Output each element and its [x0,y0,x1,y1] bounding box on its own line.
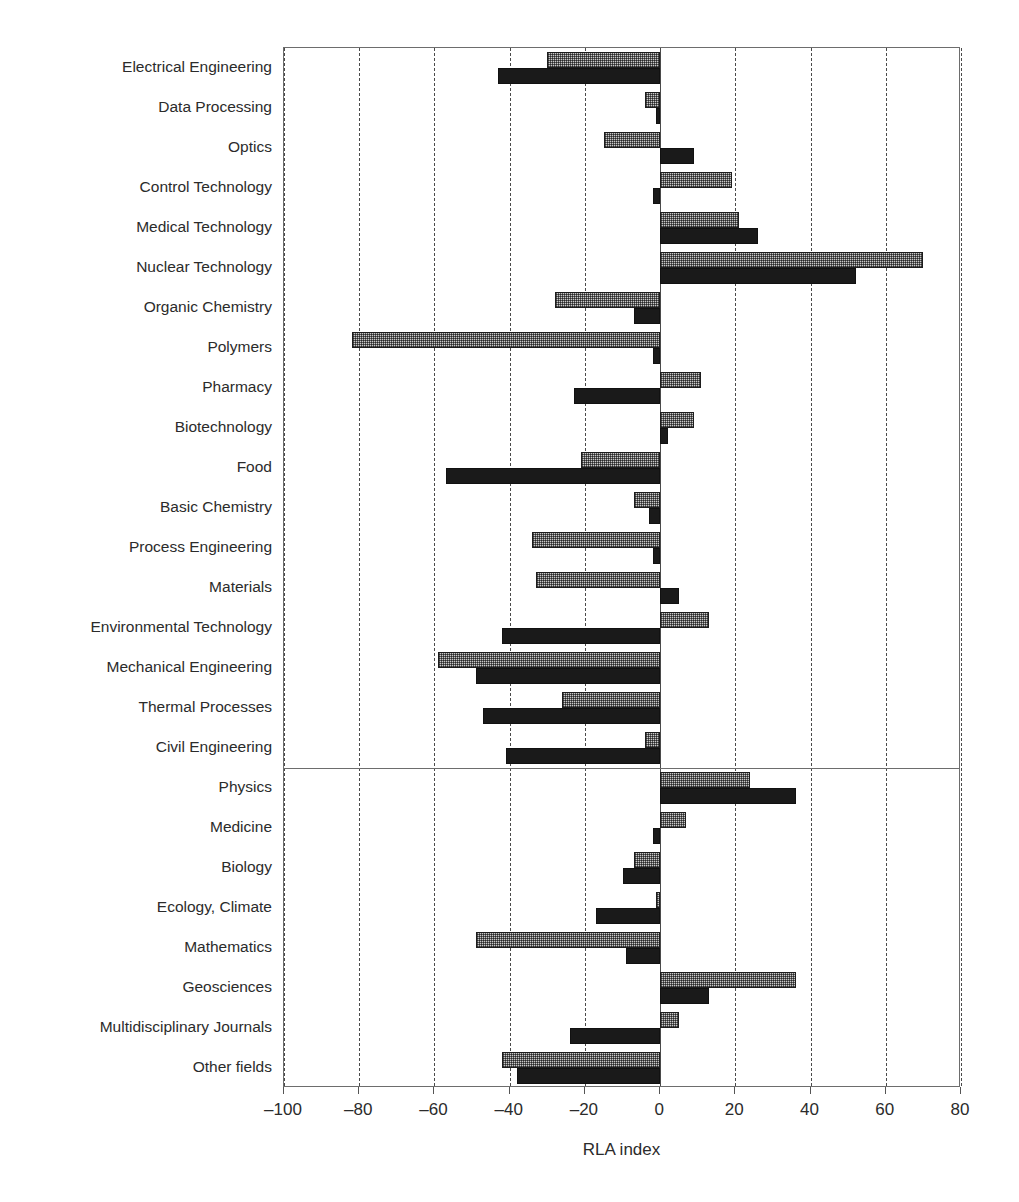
x-tick--100 [283,1087,284,1094]
gridline--100 [284,48,285,1086]
x-tick-40 [810,1087,811,1094]
x-tick-label--40: –40 [494,1100,522,1120]
bar-ger-food [446,468,660,484]
x-tick-label-40: 40 [800,1100,819,1120]
bar-sui-control-technology [660,172,731,188]
x-tick-label-20: 20 [725,1100,744,1120]
gridline--60 [434,48,435,1086]
x-tick-label--80: –80 [344,1100,372,1120]
bar-sui-polymers [352,332,660,348]
y-axis-label-mathematics: Mathematics [2,939,272,955]
x-tick--40 [509,1087,510,1094]
bar-sui-basic-chemistry [634,492,660,508]
bar-ger-process-engineering [653,548,661,564]
bar-ger-basic-chemistry [649,508,660,524]
bar-sui-geosciences [660,972,795,988]
y-axis-label-polymers: Polymers [2,339,272,355]
x-axis-title: RLA index [283,1140,960,1160]
y-axis-label-food: Food [2,459,272,475]
bar-sui-materials [536,572,660,588]
bar-ger-medicine [653,828,661,844]
bar-sui-mathematics [476,932,660,948]
y-axis-label-nuclear-technology: Nuclear Technology [2,259,272,275]
y-axis-label-civil-engineering: Civil Engineering [2,739,272,755]
bar-ger-civil-engineering [506,748,660,764]
bar-ger-biology [623,868,661,884]
x-tick-0 [659,1087,660,1094]
x-tick-20 [734,1087,735,1094]
chart-figure: Electrical EngineeringData ProcessingOpt… [0,0,1019,1202]
y-axis-label-geosciences: Geosciences [2,979,272,995]
gridline-40 [811,48,812,1086]
x-tick-80 [960,1087,961,1094]
bar-ger-medical-technology [660,228,758,244]
y-axis-label-pharmacy: Pharmacy [2,379,272,395]
gridline--20 [585,48,586,1086]
bar-ger-geosciences [660,988,709,1004]
x-tick-label--20: –20 [570,1100,598,1120]
bar-sui-electrical-engineering [547,52,660,68]
bar-ger-electrical-engineering [498,68,660,84]
section-divider [284,768,959,769]
y-axis-label-process-engineering: Process Engineering [2,539,272,555]
gridline--40 [510,48,511,1086]
bar-ger-nuclear-technology [660,268,856,284]
bar-sui-civil-engineering [645,732,660,748]
y-axis-label-medical-technology: Medical Technology [2,219,272,235]
bar-sui-nuclear-technology [660,252,923,268]
bar-ger-other-fields [517,1068,660,1084]
zero-line [660,48,661,1086]
bar-sui-biology [634,852,660,868]
bar-sui-pharmacy [660,372,701,388]
bar-ger-pharmacy [574,388,661,404]
x-axis: –100–80–60–40–20020406080 [283,1087,960,1147]
bar-sui-process-engineering [532,532,660,548]
bar-ger-biotechnology [660,428,668,444]
y-axis-label-multidisciplinary-journals: Multidisciplinary Journals [2,1019,272,1035]
y-axis-label-optics: Optics [2,139,272,155]
x-tick--80 [358,1087,359,1094]
bar-ger-thermal-processes [483,708,660,724]
y-axis-label-data-processing: Data Processing [2,99,272,115]
y-axis-label-physics: Physics [2,779,272,795]
x-tick--20 [584,1087,585,1094]
y-axis-label-thermal-processes: Thermal Processes [2,699,272,715]
bar-sui-medical-technology [660,212,739,228]
bar-sui-organic-chemistry [555,292,660,308]
bar-ger-physics [660,788,795,804]
bar-ger-multidisciplinary-journals [570,1028,660,1044]
x-tick-label-60: 60 [875,1100,894,1120]
x-tick--60 [433,1087,434,1094]
bar-sui-ecology-climate [656,892,660,908]
y-axis-label-basic-chemistry: Basic Chemistry [2,499,272,515]
bar-ger-mathematics [626,948,660,964]
bar-ger-data-processing [656,108,660,124]
y-axis-label-medicine: Medicine [2,819,272,835]
y-axis-label-other-fields: Other fields [2,1059,272,1075]
gridline-60 [886,48,887,1086]
caption-sliver [30,1194,990,1202]
bar-sui-optics [604,132,660,148]
bar-sui-data-processing [645,92,660,108]
y-axis-label-organic-chemistry: Organic Chemistry [2,299,272,315]
y-axis-category-labels: Electrical EngineeringData ProcessingOpt… [0,47,272,1087]
y-axis-label-biotechnology: Biotechnology [2,419,272,435]
bar-sui-mechanical-engineering [438,652,660,668]
gridline-20 [735,48,736,1086]
bar-sui-other-fields [502,1052,660,1068]
bar-sui-medicine [660,812,686,828]
bar-sui-multidisciplinary-journals [660,1012,679,1028]
bar-ger-materials [660,588,679,604]
bar-sui-food [581,452,660,468]
bar-ger-polymers [653,348,661,364]
bar-ger-control-technology [653,188,661,204]
bar-sui-physics [660,772,750,788]
bar-sui-biotechnology [660,412,694,428]
bar-ger-optics [660,148,694,164]
bar-sui-thermal-processes [562,692,660,708]
x-tick-label--60: –60 [419,1100,447,1120]
x-tick-label-80: 80 [951,1100,970,1120]
y-axis-label-ecology-climate: Ecology, Climate [2,899,272,915]
bar-ger-mechanical-engineering [476,668,660,684]
plot-area: SUIGER [283,47,960,1087]
